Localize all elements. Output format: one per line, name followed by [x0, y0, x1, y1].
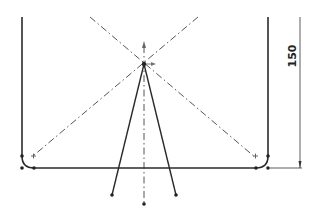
- dimension-150[interactable]: 150: [270, 17, 302, 168]
- sketch-point-icon[interactable]: [174, 193, 178, 197]
- fillet-center-mark-right: [253, 154, 258, 159]
- sketch-canvas[interactable]: 150: [0, 0, 313, 219]
- left-leg-line[interactable]: [112, 64, 144, 195]
- sketch-point-icon[interactable]: [266, 154, 270, 158]
- right-leg-line[interactable]: [144, 64, 176, 195]
- sketch-point-icon[interactable]: [20, 154, 24, 158]
- sketch-point-icon[interactable]: [110, 193, 114, 197]
- sketch-point-icon[interactable]: [266, 166, 270, 170]
- left-fillet-arc[interactable]: [22, 156, 34, 168]
- sketch-point-icon[interactable]: [20, 166, 24, 170]
- right-fillet-arc[interactable]: [256, 156, 268, 168]
- sketch-points[interactable]: [20, 62, 270, 206]
- dimension-arrow-icon: [299, 161, 302, 168]
- sketch-point-icon[interactable]: [142, 62, 146, 66]
- fillet-center-mark-left: [31, 154, 36, 159]
- sketch-point-icon[interactable]: [254, 166, 258, 170]
- dimension-value[interactable]: 150: [286, 44, 299, 67]
- centerline-diagonal-2[interactable]: [33, 17, 198, 156]
- sketch-point-icon[interactable]: [142, 202, 146, 206]
- sketch-point-icon[interactable]: [32, 166, 36, 170]
